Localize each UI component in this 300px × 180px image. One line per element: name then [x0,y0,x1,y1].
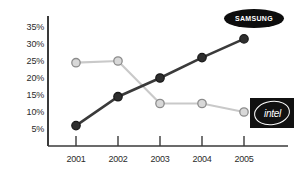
data-point-samsung-2005 [240,35,248,43]
intel-logo-text: intel [264,108,281,119]
data-point-intel-2004 [198,99,206,107]
data-point-samsung-2001 [72,121,80,129]
line-chart: 35% 30% 25% 20% 15% 10% 5% 2001 2002 200… [0,0,300,180]
data-point-samsung-2004 [198,53,206,61]
intel-logo: intel [250,98,294,128]
intel-logo-swirl: intel [253,99,292,128]
data-point-samsung-2003 [156,74,164,82]
data-point-samsung-2002 [114,93,122,101]
data-point-intel-2002 [114,57,122,65]
data-point-intel-2005 [240,108,248,116]
samsung-logo: SAMSUNG [224,9,284,28]
data-point-intel-2001 [72,59,80,67]
samsung-logo-text: SAMSUNG [235,15,273,22]
data-point-intel-2003 [156,99,164,107]
